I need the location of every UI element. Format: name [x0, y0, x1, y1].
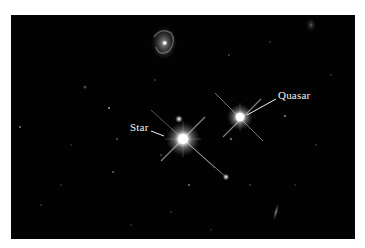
small-star: [175, 115, 183, 123]
star-label: Star: [130, 122, 149, 133]
faint-galaxy: [306, 18, 316, 32]
star-field-graphic: [11, 15, 355, 239]
star-field-photo: Star Quasar: [11, 15, 355, 239]
star-object: [151, 110, 226, 177]
star-leader-line: [151, 131, 164, 136]
spiral-galaxy: [151, 26, 177, 60]
quasar-label: Quasar: [278, 90, 310, 101]
small-star: [223, 174, 230, 181]
quasar-object: [215, 93, 263, 141]
edge-on-galaxy: [272, 203, 281, 221]
quasar-leader-line: [247, 99, 276, 115]
